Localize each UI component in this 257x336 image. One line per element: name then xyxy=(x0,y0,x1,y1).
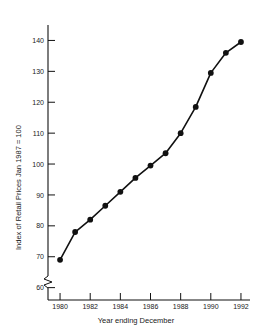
y-tick-label: 80 xyxy=(36,222,44,229)
y-axis-title: Index of Retail Prices Jan 1987 = 100 xyxy=(14,125,23,250)
chart-figure: 60708090100110120130140 1980198219841986… xyxy=(0,0,257,336)
x-axis: 1980198219841986198819901992 xyxy=(48,293,250,310)
series-point xyxy=(102,203,108,209)
series-point xyxy=(133,175,139,181)
x-tick-label: 1982 xyxy=(82,303,98,310)
series-point xyxy=(238,39,244,45)
y-tick-label: 110 xyxy=(33,130,44,137)
series-point xyxy=(57,257,63,263)
y-tick-label: 60 xyxy=(36,284,44,291)
y-axis-break-zigzag xyxy=(44,276,52,288)
series-line xyxy=(60,42,241,260)
series-point xyxy=(178,130,184,136)
x-tick-group: 1980198219841986198819901992 xyxy=(52,293,249,310)
y-tick-group: 60708090100110120130140 xyxy=(32,37,55,291)
series-point xyxy=(208,70,214,76)
series-point xyxy=(223,50,229,56)
series-point xyxy=(72,229,78,235)
y-tick-label: 120 xyxy=(32,99,44,106)
series-point xyxy=(87,217,93,223)
series-point xyxy=(117,189,123,195)
series-point xyxy=(163,150,169,156)
x-tick-label: 1992 xyxy=(233,303,249,310)
x-tick-label: 1980 xyxy=(52,303,68,310)
series-point xyxy=(193,104,199,110)
y-axis: 60708090100110120130140 xyxy=(32,25,55,300)
y-tick-label: 130 xyxy=(32,68,44,75)
x-tick-label: 1990 xyxy=(203,303,219,310)
x-tick-label: 1986 xyxy=(143,303,159,310)
series-point-group xyxy=(57,39,244,263)
x-tick-label: 1984 xyxy=(113,303,129,310)
data-series xyxy=(57,39,244,263)
y-tick-label: 100 xyxy=(32,161,44,168)
x-axis-title: Year ending December xyxy=(98,316,175,325)
x-tick-label: 1988 xyxy=(173,303,189,310)
y-tick-label: 90 xyxy=(36,192,44,199)
y-tick-label: 70 xyxy=(36,253,44,260)
series-point xyxy=(148,163,154,169)
retail-price-index-line-chart: 60708090100110120130140 1980198219841986… xyxy=(0,0,257,336)
y-tick-label: 140 xyxy=(32,37,44,44)
